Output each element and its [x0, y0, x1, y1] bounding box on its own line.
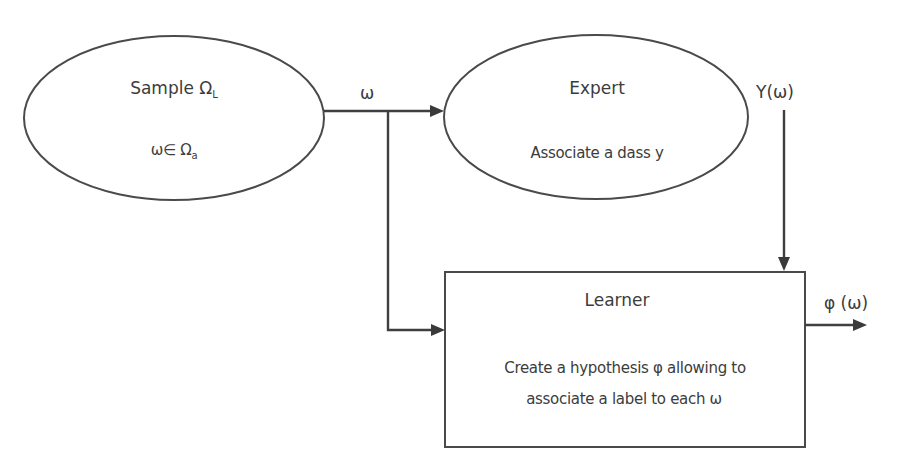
- edge-label-phi-omega: φ (ω): [824, 295, 868, 312]
- sample-node-title: Sample ΩL: [130, 80, 218, 100]
- arrowhead-icon: [778, 257, 790, 271]
- expert-node-title: Expert: [569, 80, 625, 97]
- sample-body-subscript: a: [191, 150, 197, 161]
- arrowhead-icon: [430, 105, 444, 117]
- diagram-canvas: [0, 0, 905, 469]
- edge-sample-to-learner: [388, 111, 433, 330]
- sample-title-text: Sample Ω: [130, 78, 212, 98]
- arrowhead-icon: [853, 319, 867, 331]
- sample-title-subscript: L: [212, 89, 218, 100]
- arrowhead-icon: [431, 324, 445, 336]
- learner-node-body-line2: associate a label to each ω: [526, 392, 722, 407]
- edge-label-omega: ω: [360, 85, 374, 102]
- expert-node-body: Associate a dass y: [530, 146, 663, 161]
- learner-node-title: Learner: [585, 292, 650, 309]
- edge-label-y-omega: Y(ω): [756, 84, 794, 101]
- sample-node-shape: [24, 36, 324, 200]
- expert-node-shape: [444, 35, 748, 199]
- learner-node-body-line1: Create a hypothesis φ allowing to: [504, 361, 746, 376]
- sample-node-body: ω∈ Ωa: [151, 143, 198, 161]
- sample-body-text: ω∈ Ω: [151, 141, 192, 159]
